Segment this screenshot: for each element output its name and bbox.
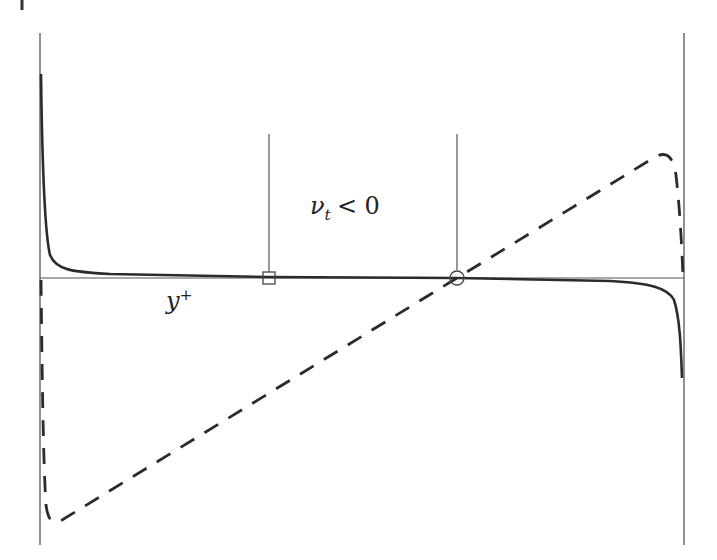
nu-relation: < 0 bbox=[337, 192, 380, 220]
solid-curve bbox=[41, 74, 682, 378]
diagram-canvas bbox=[0, 0, 717, 560]
diagram-figure: νt< 0 y+ bbox=[0, 0, 717, 560]
y-superscript: + bbox=[180, 286, 193, 304]
nu-t-annotation: νt< 0 bbox=[310, 192, 380, 224]
nu-subscript: t bbox=[325, 206, 331, 224]
nu-symbol: ν bbox=[310, 192, 325, 220]
y-plus-label: y+ bbox=[166, 286, 193, 315]
square-marker bbox=[263, 272, 275, 284]
y-symbol: y bbox=[166, 287, 180, 315]
